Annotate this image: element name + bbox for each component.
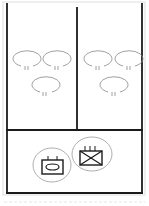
diagram-canvas <box>0 0 149 206</box>
oval-symbol <box>115 51 143 70</box>
oval-symbol <box>32 77 60 96</box>
oval-symbol <box>84 51 112 70</box>
oval-symbol <box>100 77 128 96</box>
unit-oval-symbol <box>33 148 71 182</box>
unit-x-symbol <box>72 137 112 171</box>
outer-border <box>3 2 145 195</box>
oval-symbol <box>43 51 71 70</box>
oval-symbol <box>13 51 41 70</box>
